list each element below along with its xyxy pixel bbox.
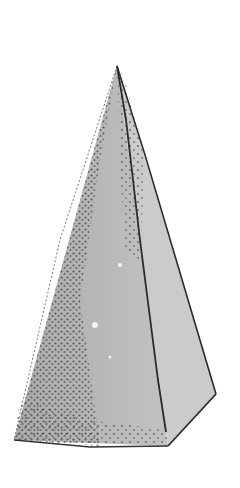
highlight [92,322,98,328]
pyramid-illustration [0,0,240,488]
highlight [118,263,122,267]
highlight [109,356,112,359]
